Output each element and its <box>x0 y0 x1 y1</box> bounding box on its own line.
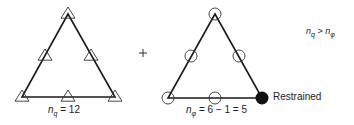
restrained-node-marker <box>256 92 269 105</box>
left-element-label: nq = 12 <box>48 104 80 117</box>
comparison-label: nq > nφ <box>306 26 335 38</box>
left-element <box>15 7 122 101</box>
displacement-node-marker <box>61 90 75 101</box>
right-triangle-outline <box>168 14 262 98</box>
right-element-label: nφ = 6 − 1 = 5 <box>186 104 247 117</box>
restrained-label: Restrained <box>273 91 321 102</box>
right-element <box>162 8 269 105</box>
left-triangle-outline <box>22 14 115 97</box>
plus-sign <box>139 49 147 57</box>
